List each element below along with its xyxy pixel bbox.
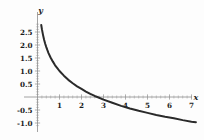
x-axis-label: x xyxy=(193,92,199,102)
x-tick-label: 6 xyxy=(167,101,172,110)
x-tick-label: 1 xyxy=(57,101,62,110)
x-tick-label: 3 xyxy=(101,101,106,110)
chart-figure: 1234567 2.52.01.51.00.5-0.5-1.0 x y xyxy=(0,0,204,140)
y-axis-label: y xyxy=(37,5,44,15)
y-axis-tick-labels: 2.52.01.51.00.5-0.5-1.0 xyxy=(17,28,33,128)
plot-canvas: 1234567 2.52.01.51.00.5-0.5-1.0 x y xyxy=(0,0,204,140)
function-curve xyxy=(41,25,196,122)
y-tick-label: -0.5 xyxy=(17,106,33,115)
y-tick-label: 0.5 xyxy=(20,80,33,89)
y-tick-label: 1.0 xyxy=(20,67,33,76)
y-tick-label: -1.0 xyxy=(17,119,33,128)
x-tick-label: 2 xyxy=(79,101,84,110)
y-tick-label: 2.5 xyxy=(20,28,33,37)
x-tick-label: 5 xyxy=(145,101,150,110)
y-tick-label: 2.0 xyxy=(20,41,33,50)
x-tick-label: 7 xyxy=(189,101,194,110)
y-tick-label: 1.5 xyxy=(20,54,33,63)
